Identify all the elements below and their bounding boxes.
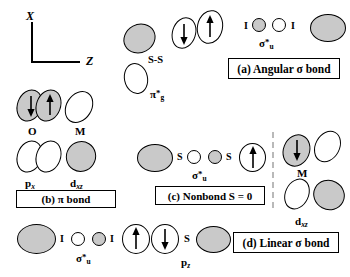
orbital-lobe-bottom-sigma-filled — [92, 232, 106, 246]
orbital-label-d-xz-b: dxz — [70, 178, 83, 190]
orbital-label-p-x: px — [25, 178, 35, 190]
panel-caption-d: (d) Linear σ bond — [233, 232, 339, 253]
orbital-lobe-bottom-large-right — [196, 226, 231, 253]
orbital-lobe-c-sigma-filled — [208, 150, 222, 164]
orbital-lobe-m-upper — [59, 86, 99, 129]
orbital-lobe-a-large-right — [310, 14, 346, 42]
orbital-label-sigma-star-u-d-sub: u — [86, 257, 90, 266]
orbital-label-pi-star-g-sub: g — [160, 93, 164, 102]
molecular-orbital-bonding-figure: X Z O M px dxz (b) π bond S-S π*g — [0, 0, 350, 277]
orbital-lobe-a-spin-down — [168, 14, 201, 52]
orbital-lobe-d-m-lower-left — [279, 174, 314, 213]
panel-caption-c: (c) Nonbond S = 0 — [155, 186, 265, 205]
panel-caption-a: (a) Angular σ bond — [228, 58, 340, 79]
orbital-label-pi-star-g: π*g — [150, 89, 164, 102]
orbital-label-p-z-sub: z — [187, 261, 190, 270]
orbital-lobe-a-sigma-filled — [252, 18, 266, 32]
atom-label-iodine-d-left: I — [60, 234, 64, 244]
axis-label-x: X — [26, 10, 34, 22]
orbital-lobe-c-sigma-empty — [187, 150, 201, 164]
orbital-lobe-c-large-left — [137, 144, 173, 172]
panel-caption-b: (b) π bond — [16, 190, 116, 208]
orbital-label-sigma-star-u-d: σ*u — [76, 253, 91, 266]
orbital-lobe-c-spin-up — [239, 143, 266, 172]
orbital-lobe-bottom-large-left — [17, 224, 56, 254]
orbital-lobe-a-spin-up — [194, 8, 227, 47]
orbital-label-d-xz-d: dxz — [295, 216, 308, 228]
orbital-label-sigma-star-u-a-sub: u — [269, 42, 273, 51]
atom-label-metal-top: M — [75, 126, 85, 137]
orbital-label-sigma-star-u-c-sub: u — [202, 174, 206, 183]
orbital-lobe-a-sigma-empty — [272, 18, 286, 32]
section-divider — [272, 132, 274, 208]
axis-label-z: Z — [86, 55, 93, 67]
orbital-label-p-z: pz — [181, 257, 190, 269]
atom-label-iodine-d-right: I — [110, 234, 114, 244]
atom-label-ss-pair: S-S — [148, 55, 163, 66]
orbital-lobe-ss-upper — [118, 18, 161, 59]
orbital-lobe-d-m-upper-left — [278, 130, 315, 171]
orbital-lobe-d-m-upper-right — [309, 126, 347, 167]
orbital-label-sigma-star-u-a: σ*u — [259, 38, 274, 51]
orbital-lobe-bottom-sigma-empty — [71, 232, 85, 246]
atom-label-oxygen: O — [28, 126, 37, 137]
atom-label-iodine-a-right: I — [291, 21, 295, 31]
orbital-lobe-bottom-spin-up — [122, 224, 150, 254]
atom-label-sulfur-c-left: S — [177, 152, 183, 162]
orbital-lobe-ss-lower — [121, 61, 151, 96]
orbital-lobe-d-m-lower-right — [308, 174, 350, 216]
orbital-lobe-m-lower — [60, 135, 102, 177]
orbital-label-d-xz-d-sub: xz — [301, 220, 308, 229]
atom-label-sulfur-c-right: S — [226, 152, 232, 162]
atom-label-iodine-a-left: I — [244, 21, 248, 31]
orbital-lobe-bottom-spin-down — [151, 224, 179, 254]
atom-label-sulfur-d: S — [184, 234, 190, 245]
orbital-label-sigma-star-u-c: σ*u — [192, 170, 207, 183]
